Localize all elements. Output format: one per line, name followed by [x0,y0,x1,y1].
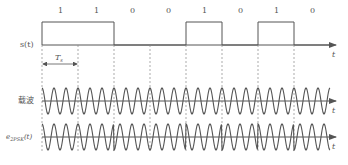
bit-label: 1 [274,6,279,15]
symbol-boundaries [42,45,294,152]
symbol-period-label: Ts [55,53,63,63]
bit-label: 0 [166,6,171,15]
bit-label: 0 [238,6,243,15]
bit-labels: 11001010 [58,6,315,15]
bit-label: 0 [310,6,315,15]
signal-label: s(t) [20,40,34,49]
bit-label: 0 [130,6,135,15]
modulated-label: e2PSK(t) [6,133,32,142]
bit-label: 1 [202,6,207,15]
signal-waveform [42,22,330,45]
carrier-axis-t-label: t [332,106,336,115]
psk-diagram: 11001010 s(t) t Ts 载波 t e2PSK(t) t [0,0,348,165]
carrier-label: 载波 [18,95,34,105]
bit-label: 1 [94,6,99,15]
signal-axis-t-label: t [332,50,336,59]
modulated-axis-t-label: t [332,142,336,151]
bit-label: 1 [58,6,63,15]
